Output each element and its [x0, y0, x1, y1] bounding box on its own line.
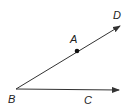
- label-b: B: [8, 93, 15, 105]
- label-d: D: [113, 9, 121, 21]
- ray-bc: [16, 89, 119, 90]
- label-a: A: [69, 33, 77, 45]
- point-a-dot: [75, 49, 80, 54]
- ray-bd: [16, 26, 120, 89]
- label-c: C: [84, 94, 92, 106]
- angle-diagram: D A B C: [0, 0, 128, 112]
